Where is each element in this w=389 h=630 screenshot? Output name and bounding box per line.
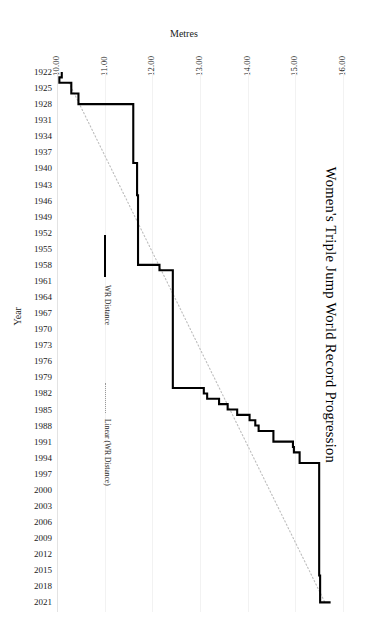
y-tick-1982: 1982	[34, 389, 52, 398]
y-tick-1988: 1988	[34, 422, 52, 431]
x-axis-title: Metres	[170, 28, 198, 39]
y-tick-1940: 1940	[34, 164, 52, 173]
y-tick-1925: 1925	[34, 84, 52, 93]
y-tick-2000: 2000	[34, 486, 52, 495]
y-tick-1970: 1970	[34, 325, 52, 334]
y-tick-1952: 1952	[34, 229, 52, 238]
y-tick-1979: 1979	[34, 373, 52, 382]
y-tick-1949: 1949	[34, 213, 52, 222]
y-axis-tick-labels: 1922192519281931193419371940194319461949…	[0, 0, 52, 630]
legend-swatch-solid-icon	[104, 235, 106, 277]
y-tick-1943: 1943	[34, 181, 52, 190]
legend-label-wr-distance: WR Distance	[103, 285, 112, 325]
y-tick-2012: 2012	[34, 550, 52, 559]
y-tick-1931: 1931	[34, 116, 52, 125]
y-tick-1964: 1964	[34, 293, 52, 302]
y-tick-1955: 1955	[34, 245, 52, 254]
y-tick-1976: 1976	[34, 357, 52, 366]
y-tick-2021: 2021	[34, 598, 52, 607]
y-tick-2009: 2009	[34, 534, 52, 543]
y-tick-1991: 1991	[34, 438, 52, 447]
y-tick-1961: 1961	[34, 277, 52, 286]
y-tick-2018: 2018	[34, 582, 52, 591]
y-tick-1922: 1922	[34, 68, 52, 77]
y-tick-1937: 1937	[34, 148, 52, 157]
y-tick-2015: 2015	[34, 566, 52, 575]
y-tick-1958: 1958	[34, 261, 52, 270]
y-tick-1946: 1946	[34, 197, 52, 206]
legend-label-linear-wr-distance: Linear (WR Distance)	[103, 419, 112, 486]
y-tick-1985: 1985	[34, 406, 52, 415]
y-tick-2003: 2003	[34, 502, 52, 511]
y-tick-1928: 1928	[34, 100, 52, 109]
legend-swatch-dotted-icon	[105, 383, 106, 413]
y-tick-1934: 1934	[34, 132, 52, 141]
y-tick-2006: 2006	[34, 518, 52, 527]
chart-legend: WR Distance Linear (WR Distance)	[95, 235, 129, 525]
gridline-16.00	[343, 72, 344, 612]
y-tick-1994: 1994	[34, 454, 52, 463]
y-tick-1973: 1973	[34, 341, 52, 350]
y-tick-1967: 1967	[34, 309, 52, 318]
y-tick-1997: 1997	[34, 470, 52, 479]
y-axis-title: Year	[12, 296, 23, 326]
chart-canvas: Metres 10.0011.0012.0013.0014.0015.0016.…	[0, 0, 389, 630]
chart-title: Women's Triple Jump World Record Progres…	[322, 167, 339, 463]
